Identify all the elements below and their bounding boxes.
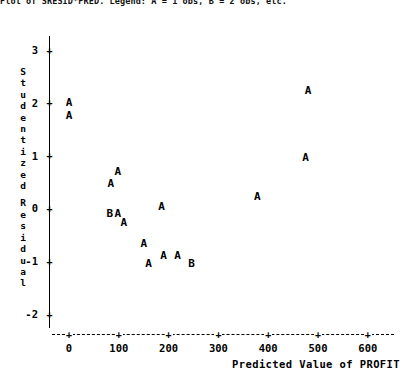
x-axis-line (52, 334, 394, 335)
data-point-marker: A (113, 166, 123, 177)
x-tick-label: 400 (248, 342, 288, 354)
data-point-marker: A (252, 191, 262, 202)
y-tick-label: 0 (12, 203, 38, 213)
y-axis-title-char: S (17, 66, 29, 77)
data-point-marker: A (301, 152, 311, 163)
data-point-marker: A (173, 250, 183, 261)
y-axis-title-char: e (17, 112, 29, 123)
data-point-marker: A (159, 250, 169, 261)
data-point-marker: A (139, 238, 149, 249)
y-tick-label: 2 (12, 98, 38, 108)
data-point-marker: A (144, 258, 154, 269)
data-point-marker: A (119, 217, 129, 228)
y-axis-line (49, 36, 50, 328)
residual-plot: Plot of SRESID*PRED. Legend: A = 1 obs, … (0, 0, 408, 377)
x-tick-mark: + (115, 329, 123, 340)
y-tick-mark: + (45, 204, 54, 213)
y-axis-title-char: t (17, 77, 29, 88)
y-tick-label: 3 (12, 45, 38, 55)
y-axis-title-char: n (17, 123, 29, 134)
x-tick-mark: + (65, 329, 73, 340)
x-axis-title: Predicted Value of PROFIT (232, 358, 400, 370)
x-tick-label: 300 (198, 342, 238, 354)
y-tick-label: -2 (12, 309, 38, 319)
plot-header-text: Plot of SRESID*PRED. Legend: A = 1 obs, … (0, 0, 408, 6)
y-axis-title-char: a (17, 266, 29, 277)
y-tick-mark: + (45, 98, 54, 107)
y-axis-title-char: s (17, 220, 29, 231)
y-tick-mark: + (45, 257, 54, 266)
x-tick-label: 500 (298, 342, 338, 354)
x-tick-label: 100 (99, 342, 139, 354)
y-tick-mark: + (45, 46, 54, 55)
y-axis-title-char: t (17, 134, 29, 145)
y-tick-mark: + (45, 310, 54, 319)
y-axis-title-char: l (17, 277, 29, 288)
x-tick-label: 600 (348, 342, 388, 354)
x-tick-mark: + (314, 329, 322, 340)
x-tick-label: 200 (149, 342, 189, 354)
data-point-marker: A (106, 178, 116, 189)
x-tick-mark: + (165, 329, 173, 340)
x-tick-mark: + (364, 329, 372, 340)
y-axis-title-char: i (17, 232, 29, 243)
y-tick-label: -1 (12, 256, 38, 266)
data-point-marker: A (303, 85, 313, 96)
x-tick-label: 0 (49, 342, 89, 354)
x-tick-mark: + (214, 329, 222, 340)
y-tick-mark: + (45, 151, 54, 160)
y-axis-title-char: d (17, 243, 29, 254)
y-tick-label: 1 (12, 151, 38, 161)
data-point-marker: A (64, 110, 74, 121)
x-tick-mark: + (264, 329, 272, 340)
data-point-marker: A (64, 97, 74, 108)
data-point-marker: A (157, 201, 167, 212)
data-point-marker: B (187, 258, 197, 269)
y-axis-title-char: d (17, 180, 29, 191)
y-axis-title-char: e (17, 169, 29, 180)
